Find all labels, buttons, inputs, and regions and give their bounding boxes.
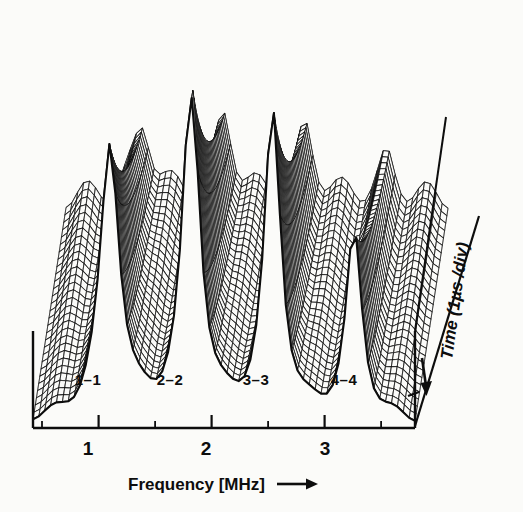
x-tick-label-3: 3 bbox=[320, 438, 331, 459]
depth-axis-title: Time (1µs /div) bbox=[437, 241, 472, 361]
x-axis-arrow-icon bbox=[277, 479, 318, 490]
x-tick-label-1: 1 bbox=[83, 438, 94, 459]
waterfall-plot-figure: 1 2 3 1–1 2–2 3–3 4–4 Frequency [MHz] Ti… bbox=[0, 0, 523, 512]
mode-label-1-1: 1–1 bbox=[75, 371, 102, 388]
depth-axis-title-group: Time (1µs /div) bbox=[437, 241, 472, 361]
x-axis-title: Frequency [MHz] bbox=[128, 475, 265, 494]
mode-label-3-3: 3–3 bbox=[243, 371, 270, 388]
x-tick-label-2: 2 bbox=[201, 438, 212, 459]
mode-label-2-2: 2–2 bbox=[157, 371, 184, 388]
mode-label-4-4: 4–4 bbox=[331, 371, 358, 388]
